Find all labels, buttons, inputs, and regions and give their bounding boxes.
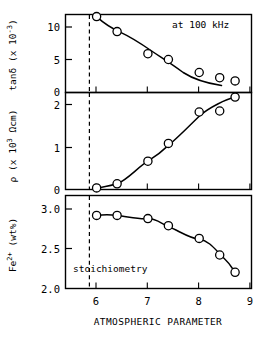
data-point	[195, 234, 203, 242]
ytick-label: 1	[54, 142, 60, 154]
data-point	[231, 268, 239, 276]
data-point	[93, 184, 101, 192]
panel-resistivity: 2 1 0 ρ (x 103 Ωcm)	[6, 93, 252, 196]
data-point	[216, 251, 224, 259]
ylabel-main: tanδ (x 10	[7, 33, 18, 90]
ytick-label: 3.0	[41, 203, 60, 215]
data-point	[93, 211, 101, 219]
stoichiometry-label: stoichiometry	[73, 263, 148, 274]
ylabel-ferrous: Fe2+ (wt%)	[6, 218, 18, 272]
data-point	[195, 68, 203, 76]
x-axis-title: ATMOSPHERIC PARAMETER	[94, 316, 223, 327]
data-point	[144, 50, 152, 58]
ylabel-exponent: -3	[6, 25, 14, 33]
figure-container: at 100 kHz 10 5 0 tanδ (x 10-3)	[0, 0, 264, 337]
frequency-annotation: at 100 kHz	[172, 19, 229, 30]
ylabel-suffix: Ωcm)	[7, 110, 18, 139]
ylabel-main: ρ (x 10	[7, 142, 18, 182]
ylabel-exponent: 2+	[6, 252, 14, 260]
data-point	[231, 93, 239, 101]
xtick-label: 8	[195, 295, 201, 307]
data-point	[144, 215, 152, 223]
data-point	[113, 180, 121, 188]
ylabel-tandelta: tanδ (x 10-3)	[6, 19, 18, 90]
data-point	[113, 211, 121, 219]
svg-text:Fe2+ (wt%): Fe2+ (wt%)	[6, 218, 18, 272]
x-axis: 6 7 8 9 ATMOSPHERIC PARAMETER	[93, 295, 253, 327]
data-point	[164, 222, 172, 230]
ylabel-main: Fe	[7, 260, 18, 272]
three-panel-plot: at 100 kHz 10 5 0 tanδ (x 10-3)	[0, 0, 264, 337]
ytick-label: 5	[54, 54, 60, 66]
ylabel-resistivity: ρ (x 103 Ωcm)	[6, 110, 18, 183]
data-point	[164, 55, 172, 63]
data-point	[216, 74, 224, 82]
panel-ferrous: stoichiometry 3.0 2.5 2.0 Fe2+ (wt%)	[6, 196, 252, 295]
data-point	[216, 107, 224, 115]
ytick-label: 0	[54, 86, 60, 98]
data-point	[144, 157, 152, 165]
ytick-label: 2.0	[41, 283, 60, 295]
data-point	[231, 77, 239, 85]
panel-tandelta: at 100 kHz 10 5 0 tanδ (x 10-3)	[6, 13, 252, 99]
panel-resistivity-frame	[66, 93, 252, 190]
ytick-label: 0	[54, 184, 60, 196]
xtick-label: 6	[93, 295, 99, 307]
ylabel-suffix: )	[7, 19, 18, 25]
ytick-label: 10	[47, 21, 60, 33]
svg-text:ρ (x 103 Ωcm): ρ (x 103 Ωcm)	[6, 110, 18, 183]
panel-ferrous-frame	[66, 196, 252, 289]
data-point	[113, 28, 121, 36]
svg-text:tanδ (x 10-3): tanδ (x 10-3)	[6, 19, 18, 90]
ytick-label: 2.5	[41, 243, 60, 255]
xtick-label: 9	[247, 295, 253, 307]
ytick-label: 2	[54, 99, 60, 111]
data-point	[195, 108, 203, 116]
xtick-label: 7	[144, 295, 150, 307]
data-point	[164, 139, 172, 147]
ylabel-suffix: (wt%)	[7, 218, 18, 252]
data-point	[93, 13, 101, 21]
